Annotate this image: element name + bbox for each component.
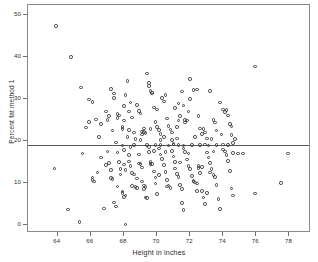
data-point [102,207,106,211]
data-point [190,143,194,147]
data-point [144,185,148,189]
data-point [122,163,126,167]
x-tick [123,232,124,236]
x-tick-label: 70 [153,238,160,244]
data-point [69,55,73,59]
y-tick [23,14,27,15]
x-tick-label: 78 [285,238,292,244]
x-axis-title: Height in inches [0,249,318,256]
data-point [81,152,85,156]
data-points-layer [28,5,309,231]
data-point [154,182,158,186]
data-point [135,177,139,181]
data-point [78,220,82,224]
data-point [195,189,199,193]
data-point [99,156,103,160]
data-point [178,161,182,165]
data-point [170,131,174,135]
data-point [178,114,182,118]
data-point [129,164,133,168]
data-point [92,180,96,184]
data-point [104,163,108,167]
x-tick-label: 76 [252,238,259,244]
data-point [112,96,116,100]
data-point [53,167,57,171]
data-point [213,121,217,125]
data-point [205,137,209,141]
data-point [124,223,128,227]
data-point [185,158,189,162]
x-tick [288,232,289,236]
data-point [169,186,173,190]
data-point [170,138,174,142]
data-point [132,173,136,177]
data-point [124,93,128,97]
data-point [155,192,159,196]
data-point [228,169,232,173]
data-point [217,197,221,201]
data-point [162,163,166,167]
data-point [137,153,141,157]
data-point [117,160,121,164]
data-point [111,129,115,133]
data-point [203,202,207,206]
data-point [127,110,131,114]
data-point [253,65,257,69]
data-point [111,177,115,181]
data-point [195,88,199,92]
data-point [182,208,186,212]
data-point [109,168,113,172]
data-point [122,119,126,123]
data-point [87,120,91,124]
data-point [172,143,176,147]
data-point [177,175,181,179]
data-point [109,87,113,91]
y-tick [23,98,27,99]
data-point [253,192,257,196]
data-point [197,114,201,118]
data-point [164,170,168,174]
data-point [145,196,149,200]
data-point [236,152,240,156]
data-point [147,84,151,88]
data-point [187,152,191,156]
x-tick-label: 64 [53,238,60,244]
data-point [207,144,211,148]
data-point [152,149,156,153]
data-point [172,155,176,159]
data-point [152,170,156,174]
data-point [230,187,234,191]
data-point [188,77,192,81]
data-point [177,119,181,123]
data-point [106,150,110,154]
data-point [99,122,103,126]
data-point [135,186,139,190]
data-point [119,167,123,171]
data-point [122,104,126,108]
data-point [226,143,230,147]
data-point [127,160,131,164]
data-point [54,24,58,28]
data-point [167,144,171,148]
data-point [126,79,130,83]
data-point [157,173,161,177]
x-tick-label: 68 [119,238,126,244]
data-point [129,145,133,149]
data-point [132,131,136,135]
data-point [107,114,111,118]
data-point [190,174,194,178]
data-point [202,196,206,200]
data-point [195,182,199,186]
data-point [142,127,146,131]
data-point [203,131,207,135]
data-point [180,90,184,94]
data-point [154,143,158,147]
data-point [173,106,177,110]
data-point [188,167,192,171]
data-point [154,120,158,124]
data-point [225,108,229,112]
data-point [129,101,133,105]
data-point [218,207,222,211]
x-tick-label: 66 [86,238,93,244]
data-point [225,153,229,157]
